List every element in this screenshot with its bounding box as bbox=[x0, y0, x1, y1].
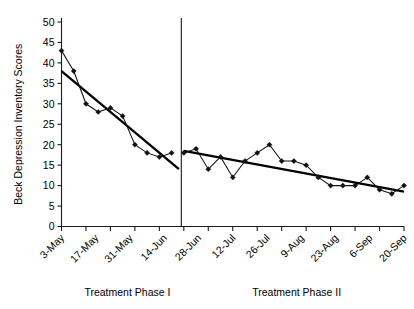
x-tick-label: 6-Sep bbox=[346, 231, 374, 259]
y-axis-title: Beck Depression Inventory Scores bbox=[12, 44, 24, 205]
y-tick-label: 5 bbox=[49, 200, 55, 212]
x-tick-label: 9-Aug bbox=[278, 231, 306, 259]
x-tick-label: 12-Jul bbox=[209, 231, 238, 260]
series-line bbox=[62, 51, 172, 157]
y-tick-label: 40 bbox=[43, 57, 55, 69]
y-axis: 05101520253035404550 bbox=[43, 16, 62, 233]
data-point-marker bbox=[71, 68, 76, 73]
y-tick-label: 20 bbox=[43, 139, 55, 151]
phase-labels: Treatment Phase ITreatment Phase II bbox=[84, 286, 341, 298]
y-tick-label: 15 bbox=[43, 159, 55, 171]
x-tick-label-group: 6-Sep bbox=[346, 231, 374, 259]
x-tick-label-group: 23-Aug bbox=[308, 231, 341, 264]
y-axis-title-text: Beck Depression Inventory Scores bbox=[12, 44, 24, 205]
x-tick-label: 3-May bbox=[37, 231, 67, 261]
data-markers bbox=[59, 48, 407, 196]
data-series bbox=[62, 51, 405, 194]
data-point-marker bbox=[59, 48, 64, 53]
data-point-marker bbox=[291, 158, 296, 163]
y-tick-label: 25 bbox=[43, 118, 55, 130]
trend-lines bbox=[62, 71, 405, 192]
y-tick-label: 0 bbox=[49, 220, 55, 232]
phase-one-label: Treatment Phase I bbox=[84, 286, 170, 298]
x-tick-label: 26-Jul bbox=[243, 231, 272, 260]
x-tick-label: 23-Aug bbox=[308, 231, 341, 264]
x-tick-label-group: 9-Aug bbox=[278, 231, 306, 259]
x-tick-labels: 3-May17-May31-May14-Jun28-Jun12-Jul26-Ju… bbox=[37, 231, 409, 265]
chart-figure: 05101520253035404550 3-May17-May31-May14… bbox=[0, 0, 414, 309]
x-tick-label: 17-May bbox=[67, 231, 101, 265]
x-tick-label-group: 20-Sep bbox=[376, 231, 409, 264]
phase-two-label: Treatment Phase II bbox=[252, 286, 341, 298]
y-tick-label: 10 bbox=[43, 179, 55, 191]
trend-line bbox=[184, 151, 404, 192]
x-tick-label: 20-Sep bbox=[376, 231, 409, 264]
chart-canvas: 05101520253035404550 3-May17-May31-May14… bbox=[0, 0, 414, 309]
y-tick-label: 50 bbox=[43, 16, 55, 28]
x-tick-label-group: 31-May bbox=[102, 231, 136, 265]
x-tick-label-group: 12-Jul bbox=[209, 231, 238, 260]
x-tick-label: 28-Jun bbox=[172, 231, 203, 262]
data-point-marker bbox=[169, 150, 174, 155]
y-tick-label: 30 bbox=[43, 98, 55, 110]
x-tick-label-group: 28-Jun bbox=[172, 231, 203, 262]
data-point-marker bbox=[193, 146, 198, 151]
x-tick-label-group: 14-Jun bbox=[138, 231, 169, 262]
y-tick-label: 45 bbox=[43, 36, 55, 48]
x-axis bbox=[62, 227, 405, 232]
x-tick-label-group: 26-Jul bbox=[243, 231, 272, 260]
x-tick-label: 14-Jun bbox=[138, 231, 169, 262]
x-tick-label: 31-May bbox=[102, 231, 136, 265]
x-tick-label-group: 3-May bbox=[37, 231, 67, 261]
y-tick-label: 35 bbox=[43, 77, 55, 89]
data-point-marker bbox=[340, 183, 345, 188]
x-tick-label-group: 17-May bbox=[67, 231, 101, 265]
